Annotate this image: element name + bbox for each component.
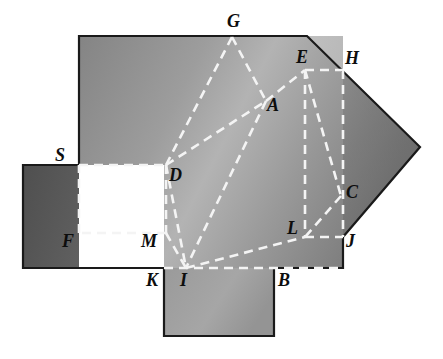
vertex-label-M: M <box>141 232 157 250</box>
vertex-label-J: J <box>346 232 355 250</box>
vertex-label-B: B <box>278 271 290 289</box>
vertex-label-K: K <box>146 271 158 289</box>
vertex-label-E: E <box>296 48 308 66</box>
figure-canvas <box>0 0 443 359</box>
vertex-label-I: I <box>180 271 187 289</box>
region-left-panel <box>23 165 164 268</box>
vertex-label-H: H <box>345 49 359 67</box>
shape-fills <box>23 36 420 336</box>
vertex-label-G: G <box>227 12 240 30</box>
vertex-label-S: S <box>55 146 65 164</box>
vertex-label-L: L <box>287 219 298 237</box>
vertex-label-D: D <box>169 166 182 184</box>
geometry-figure: G E H A S D C F M L J K I B <box>0 0 443 359</box>
vertex-label-C: C <box>346 183 358 201</box>
vertex-label-A: A <box>267 96 279 114</box>
vertex-label-F: F <box>62 232 74 250</box>
